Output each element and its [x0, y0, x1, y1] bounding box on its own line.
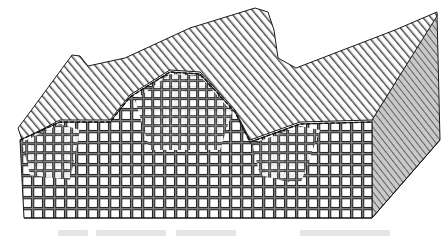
caption-fragment: [58, 230, 88, 236]
caption-fragment: [176, 230, 236, 236]
caption-fragment: [96, 230, 166, 236]
figure-caption: [0, 228, 443, 236]
block-lattice-diagram: [0, 0, 443, 224]
caption-fragment: [300, 230, 390, 236]
